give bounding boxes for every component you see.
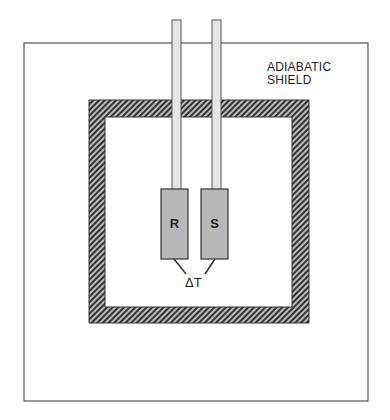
sample-tube xyxy=(212,20,221,190)
delta-t-label: ΔT xyxy=(185,275,202,290)
sample-label: S xyxy=(201,216,228,231)
reference-label: R xyxy=(161,216,188,231)
reference-tube xyxy=(172,20,181,190)
shield-label-line2: SHIELD xyxy=(267,74,331,87)
adiabatic-shield-label: ADIABATIC SHIELD xyxy=(267,61,331,87)
dsc-diagram xyxy=(0,0,390,420)
adiabatic-shield-box xyxy=(24,43,368,401)
